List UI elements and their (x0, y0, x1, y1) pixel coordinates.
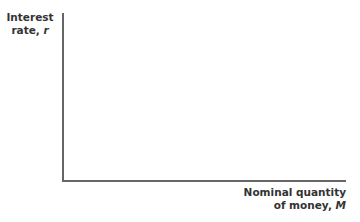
x-axis-variable: M (336, 199, 346, 211)
x-axis-label-text: of money, (274, 199, 336, 211)
y-axis (62, 13, 64, 181)
y-axis-variable: r (43, 24, 48, 36)
y-axis-label-line2: rate, r (2, 24, 58, 37)
y-axis-label-text: rate, (11, 24, 43, 36)
y-axis-label-line1: Interest (2, 11, 58, 24)
x-axis-label: Nominal quantity of money, M (244, 186, 346, 212)
x-axis (62, 180, 346, 182)
y-axis-label: Interest rate, r (2, 11, 58, 37)
x-axis-label-line1: Nominal quantity (244, 186, 346, 199)
x-axis-label-line2: of money, M (244, 199, 346, 212)
